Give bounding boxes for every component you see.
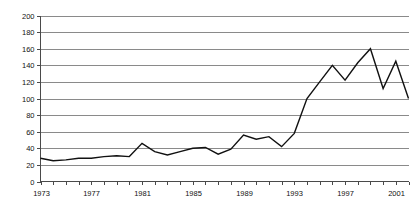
line-chart: 020406080100120140160180200 197319771981… <box>0 0 417 216</box>
y-tick-label: 100 <box>22 95 35 104</box>
x-axis-ticks <box>42 182 410 186</box>
x-tick-label: 1993 <box>286 189 303 198</box>
x-axis-tick-labels: 19731977198119851989199319972001 <box>33 189 405 198</box>
y-tick-label: 140 <box>22 61 35 70</box>
y-tick-label: 160 <box>22 45 35 54</box>
x-tick-label: 1973 <box>33 189 50 198</box>
y-tick-label: 0 <box>30 178 34 187</box>
y-tick-label: 120 <box>22 78 35 87</box>
y-tick-label: 40 <box>26 144 34 153</box>
y-tick-label: 60 <box>26 128 34 137</box>
y-axis-tick-labels: 020406080100120140160180200 <box>22 12 35 187</box>
x-tick-label: 1985 <box>185 189 202 198</box>
y-tick-label: 80 <box>26 111 34 120</box>
x-tick-label: 2001 <box>388 189 405 198</box>
y-tick-label: 20 <box>26 161 34 170</box>
x-tick-label: 1997 <box>337 189 354 198</box>
y-tick-label: 200 <box>22 12 35 21</box>
x-tick-label: 1977 <box>83 189 100 198</box>
gridlines <box>41 17 409 166</box>
x-tick-label: 1981 <box>134 189 151 198</box>
y-axis-ticks <box>37 17 41 183</box>
chart-plot-area: 020406080100120140160180200 197319771981… <box>0 0 417 216</box>
y-tick-label: 180 <box>22 28 35 37</box>
axis-lines <box>41 16 409 182</box>
x-tick-label: 1989 <box>236 189 253 198</box>
